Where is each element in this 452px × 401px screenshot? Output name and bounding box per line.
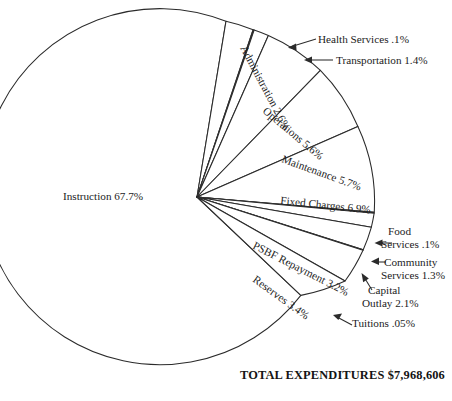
arrowhead-capital-outlay bbox=[362, 273, 369, 282]
callout-label-transportation: Transportation 1.4% bbox=[336, 54, 428, 66]
callout-label-food-services-line1: Food bbox=[388, 225, 411, 237]
callout-tuitions bbox=[333, 314, 352, 326]
callout-label-community-services-line2: Services 1.3% bbox=[381, 269, 445, 281]
callout-label-health-services: Health Services .1% bbox=[318, 33, 409, 45]
callout-label-community-services-line1: Community bbox=[384, 256, 438, 268]
callout-label-capital-outlay-line1: Capital bbox=[368, 284, 400, 296]
callout-label-capital-outlay-line2: Outlay 2.1% bbox=[362, 297, 419, 309]
callout-label-food-services-line2: Services .1% bbox=[381, 238, 439, 250]
pie-chart-page: Instruction 67.7% Administration 2.6% Op… bbox=[0, 0, 452, 401]
callout-label-tuitions: Tuitions .05% bbox=[352, 317, 415, 329]
expenditures-pie-chart: Instruction 67.7% Administration 2.6% Op… bbox=[0, 0, 452, 401]
arrowhead-community-services bbox=[371, 258, 379, 265]
total-expenditures-caption: TOTAL EXPENDITURES $7,968,606 bbox=[240, 368, 445, 382]
callout-health-services bbox=[288, 39, 316, 50]
slice-label-instruction: Instruction 67.7% bbox=[63, 190, 143, 202]
